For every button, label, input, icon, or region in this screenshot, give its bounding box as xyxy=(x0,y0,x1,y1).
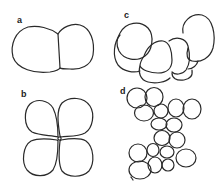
cell-d-17 xyxy=(162,159,174,171)
cell-d-3 xyxy=(135,105,154,121)
cell-b-bottom-left xyxy=(24,139,58,176)
cell-c-2 xyxy=(140,41,172,73)
panel-label-d: d xyxy=(120,87,126,96)
panel-c-drawing xyxy=(114,15,214,83)
cell-division-figure: a b c d xyxy=(0,0,217,185)
cell-c-1-under xyxy=(114,35,140,72)
panel-label-a: a xyxy=(17,16,22,25)
cell-d-13 xyxy=(160,146,174,158)
cell-d-16 xyxy=(129,161,151,179)
cell-c-1 xyxy=(117,23,152,59)
cell-c-2-under xyxy=(139,66,170,83)
cell-c-4 xyxy=(183,15,214,62)
cell-d-11 xyxy=(147,144,159,157)
cell-d-5 xyxy=(168,99,184,117)
panel-a-drawing xyxy=(12,24,93,72)
cell-d-14 xyxy=(176,149,196,167)
cell-b-bottom-right xyxy=(59,139,93,177)
cell-d-10 xyxy=(169,132,185,148)
cell-c-3-under xyxy=(172,70,192,80)
cell-d-7 xyxy=(151,118,167,130)
panel-b-drawing xyxy=(24,98,93,176)
panel-label-c: c xyxy=(124,11,129,20)
panel-d-drawing xyxy=(127,88,201,181)
cell-d-12 xyxy=(129,144,147,162)
cell-b-top-right xyxy=(58,98,93,137)
cell-d-9 xyxy=(154,131,170,146)
cell-d-6 xyxy=(183,99,201,119)
cell-b-top-left xyxy=(25,101,58,137)
cell-a-left xyxy=(12,26,60,72)
panel-label-b: b xyxy=(21,90,27,99)
cell-d-15 xyxy=(148,157,162,173)
cell-b-center-gap xyxy=(58,137,61,140)
cell-a-right xyxy=(58,24,93,69)
cell-d-4 xyxy=(154,104,168,118)
cell-d-8 xyxy=(166,118,182,132)
